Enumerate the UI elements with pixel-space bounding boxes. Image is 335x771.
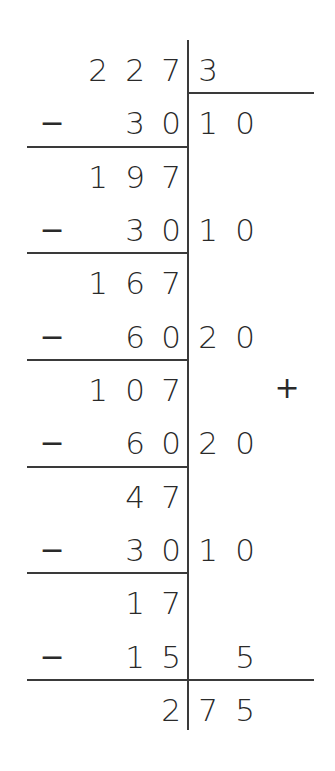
separator-line — [27, 359, 189, 361]
dividend-digit: 0 — [156, 425, 186, 461]
dividend-digit: 7 — [156, 585, 186, 621]
dividend-digit: 7 — [156, 265, 186, 301]
dividend-digit: 7 — [156, 52, 186, 88]
quotient-digit — [193, 265, 223, 301]
dividend-digit — [83, 105, 113, 141]
dividend-digit: 3 — [120, 212, 150, 248]
dividend-digit: 0 — [156, 532, 186, 568]
quotient-digit: 2 — [193, 425, 223, 461]
quotient-digit: 5 — [230, 692, 260, 728]
dividend-digit: 7 — [156, 372, 186, 408]
dividend-digit: 1 — [83, 159, 113, 195]
quotient-digit — [193, 585, 223, 621]
result-line — [27, 679, 314, 681]
dividend-digit: 4 — [120, 479, 150, 515]
quotient-digit: 1 — [193, 212, 223, 248]
dividend-digit — [83, 212, 113, 248]
minus-sign: − — [39, 535, 64, 565]
dividend-digit: 1 — [83, 372, 113, 408]
dividend-digit: 0 — [120, 372, 150, 408]
dividend-digit: 7 — [156, 479, 186, 515]
quotient-digit: 0 — [230, 425, 260, 461]
minus-sign: − — [39, 322, 64, 352]
quotient-digit — [193, 372, 223, 408]
quotient-digit: 0 — [230, 319, 260, 355]
dividend-digit: 6 — [120, 425, 150, 461]
quotient-digit: 1 — [193, 532, 223, 568]
dividend-digit — [83, 585, 113, 621]
quotient-digit — [230, 52, 260, 88]
quotient-digit — [193, 479, 223, 515]
separator-line — [27, 572, 189, 574]
dividend-digit: 1 — [120, 639, 150, 675]
dividend-digit: 6 — [120, 265, 150, 301]
dividend-digit: 1 — [83, 265, 113, 301]
quotient-digit: 5 — [230, 639, 260, 675]
dividend-digit — [83, 639, 113, 675]
quotient-digit: 3 — [193, 52, 223, 88]
dividend-digit — [83, 692, 113, 728]
quotient-digit — [230, 585, 260, 621]
dividend-digit: 0 — [156, 105, 186, 141]
dividend-digit: 9 — [120, 159, 150, 195]
quotient-digit — [193, 159, 223, 195]
minus-sign: − — [39, 108, 64, 138]
minus-sign: − — [39, 215, 64, 245]
quotient-digit: 1 — [193, 105, 223, 141]
quotient-digit: 2 — [193, 319, 223, 355]
minus-sign: − — [39, 642, 64, 672]
quotient-digit — [193, 639, 223, 675]
quotient-digit — [230, 372, 260, 408]
dividend-digit: 3 — [120, 532, 150, 568]
divider-vertical-line — [187, 40, 189, 730]
quotient-digit — [230, 265, 260, 301]
dividend-digit — [83, 319, 113, 355]
plus-sign: + — [274, 373, 299, 403]
dividend-digit: 7 — [156, 159, 186, 195]
dividend-digit: 0 — [156, 212, 186, 248]
dividend-digit — [83, 532, 113, 568]
dividend-digit: 6 — [120, 319, 150, 355]
dividend-digit: 2 — [120, 52, 150, 88]
dividend-digit: 1 — [120, 585, 150, 621]
minus-sign: − — [39, 428, 64, 458]
separator-line — [27, 146, 189, 148]
quotient-digit: 0 — [230, 532, 260, 568]
dividend-digit: 2 — [83, 52, 113, 88]
dividend-digit: 3 — [120, 105, 150, 141]
dividend-digit — [83, 479, 113, 515]
dividend-digit: 2 — [156, 692, 186, 728]
dividend-digit — [83, 425, 113, 461]
quotient-digit: 0 — [230, 212, 260, 248]
quotient-digit: 7 — [193, 692, 223, 728]
dividend-digit: 0 — [156, 319, 186, 355]
dividend-digit: 5 — [156, 639, 186, 675]
quotient-digit — [230, 479, 260, 515]
dividend-digit — [120, 692, 150, 728]
quotient-digit: 0 — [230, 105, 260, 141]
separator-line — [27, 466, 189, 468]
divisor-underline — [188, 92, 314, 94]
quotient-digit — [230, 159, 260, 195]
separator-line — [27, 252, 189, 254]
